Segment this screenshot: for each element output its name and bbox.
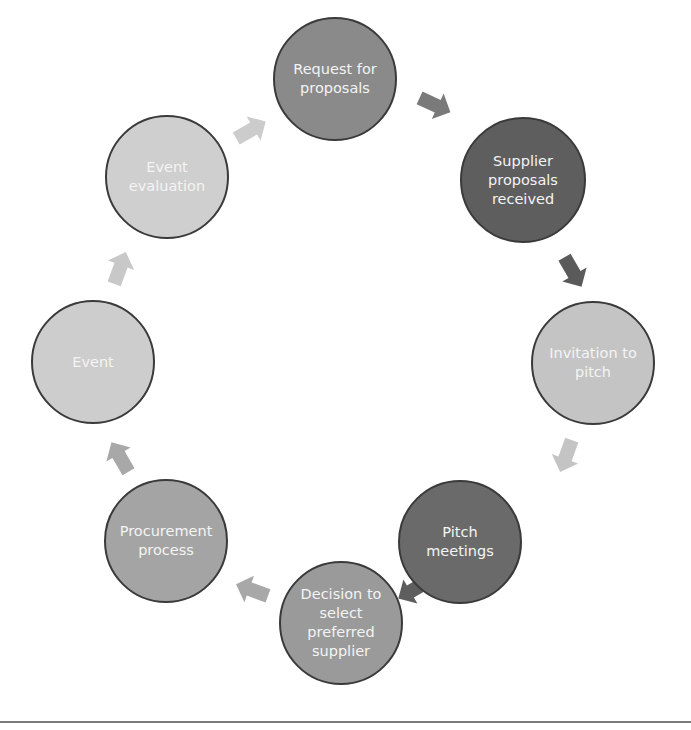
arrow-icon [99, 435, 140, 478]
arrow-icon [414, 85, 457, 125]
cycle-node-procurement: Procurement process [104, 479, 228, 603]
arrow-icon [231, 571, 273, 609]
cycle-node-invitation: Invitation to pitch [531, 301, 655, 425]
cycle-node-pitch: Pitch meetings [398, 480, 522, 604]
arrow-icon [229, 109, 272, 150]
cycle-node-label: Event evaluation [123, 158, 211, 196]
cycle-node-label: Invitation to pitch [543, 344, 643, 382]
cycle-node-decision: Decision to select preferred supplier [279, 561, 403, 685]
cycle-node-event: Event [31, 300, 155, 424]
cycle-node-label: Request for proposals [287, 60, 382, 98]
cycle-node-label: Supplier proposals received [482, 152, 564, 209]
arrow-icon [552, 250, 593, 293]
cycle-node-label: Event [66, 353, 120, 372]
arrow-icon [547, 435, 585, 477]
cycle-node-label: Procurement process [114, 522, 219, 560]
cycle-node-supplier: Supplier proposals received [460, 117, 586, 243]
arrow-icon [101, 247, 139, 289]
bottom-divider [0, 721, 691, 723]
cycle-node-evaluation: Event evaluation [105, 115, 229, 239]
cycle-node-request: Request for proposals [273, 17, 397, 141]
cycle-node-label: Pitch meetings [420, 523, 500, 561]
cycle-node-label: Decision to select preferred supplier [295, 585, 388, 661]
